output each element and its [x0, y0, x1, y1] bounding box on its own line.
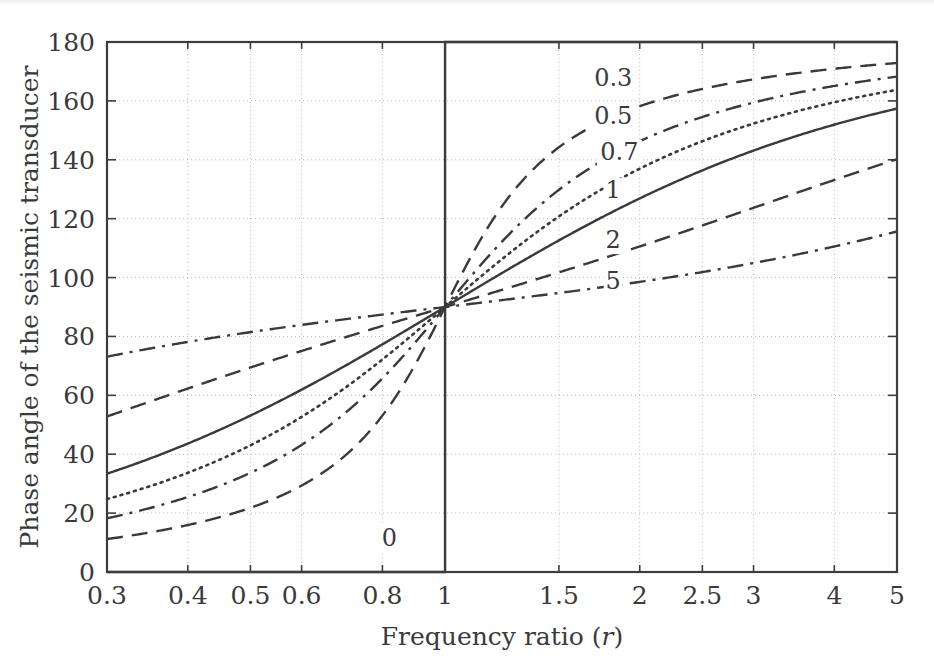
y-tick-label: 180 [47, 28, 95, 57]
chart-background [0, 0, 934, 668]
x-tick-label: 2.5 [682, 581, 722, 610]
x-tick-label: 2 [632, 581, 648, 610]
x-tick-label: 1.5 [539, 581, 579, 610]
x-axis-title: Frequency ratio (r) [381, 622, 624, 651]
curve-label-0-5: 0.5 [594, 102, 632, 130]
x-tick-label: 0.6 [282, 581, 322, 610]
y-tick-label: 20 [63, 499, 95, 528]
x-tick-label: 0.3 [87, 581, 127, 610]
y-tick-label: 120 [47, 205, 95, 234]
x-tick-label: 4 [826, 581, 842, 610]
y-tick-label: 140 [47, 146, 95, 175]
y-tick-label: 60 [63, 381, 95, 410]
phase-angle-chart: 020406080100120140160180 0.30.40.50.60.8… [0, 0, 934, 668]
x-tick-label: 0.5 [231, 581, 271, 610]
curve-label-5: 5 [606, 267, 621, 295]
scan-artifact-top [0, 0, 934, 5]
curve-label-1: 1 [606, 176, 621, 204]
curve-label-0-3: 0.3 [594, 64, 632, 92]
x-tick-label: 0.8 [363, 581, 403, 610]
y-tick-label: 80 [63, 322, 95, 351]
x-tick-label: 0.4 [168, 581, 208, 610]
y-tick-label: 100 [47, 264, 95, 293]
x-tick-label: 3 [746, 581, 762, 610]
y-tick-label: 40 [63, 440, 95, 469]
curve-label-2: 2 [606, 226, 621, 254]
curve-label-0: 0 [382, 524, 397, 552]
x-tick-label: 1 [437, 581, 453, 610]
x-tick-label: 5 [889, 581, 905, 610]
curve-label-0-7: 0.7 [600, 138, 638, 166]
y-tick-label: 160 [47, 87, 95, 116]
figure-container: 020406080100120140160180 0.30.40.50.60.8… [0, 0, 934, 668]
y-axis-title: Phase angle of the seismic transducer [15, 65, 44, 548]
